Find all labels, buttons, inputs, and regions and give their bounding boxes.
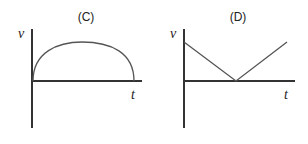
x-axis-label: t	[131, 87, 136, 102]
velocity-curve	[184, 42, 287, 81]
y-axis-label: v	[170, 26, 177, 41]
graph-panel-c: (C) v t	[18, 10, 142, 128]
panel-label: (C)	[78, 10, 95, 24]
y-axis-label: v	[18, 26, 25, 41]
velocity-curve	[33, 42, 134, 81]
velocity-time-graphs: (C) v t (D) v t	[0, 0, 308, 144]
graph-panel-d: (D) v t	[170, 10, 295, 128]
panel-label: (D)	[230, 10, 247, 24]
x-axis-label: t	[284, 87, 289, 102]
